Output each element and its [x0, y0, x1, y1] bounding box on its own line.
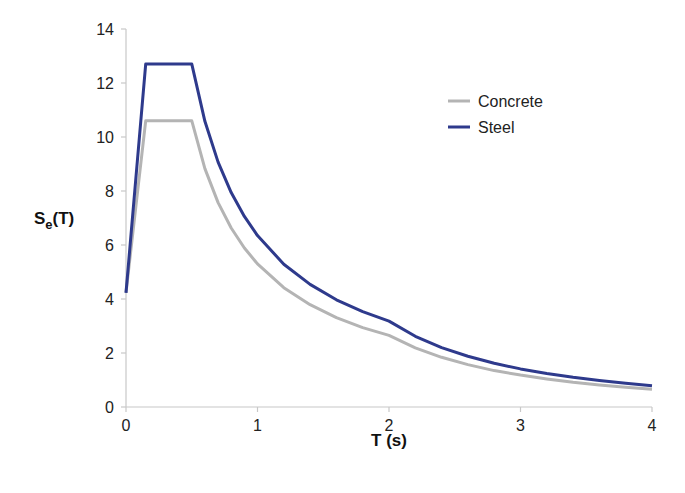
- y-axis-label: Se(T): [34, 209, 74, 232]
- y-tick-label: 4: [105, 291, 114, 308]
- y-tick-label: 8: [105, 183, 114, 200]
- legend-label-steel: Steel: [478, 119, 514, 136]
- x-axis-label: T (s): [371, 431, 407, 450]
- response-spectrum-chart: 0246810121401234 ConcreteSteel T (s) Se(…: [0, 0, 685, 493]
- legend-label-concrete: Concrete: [478, 93, 543, 110]
- y-tick-label: 10: [96, 129, 114, 146]
- x-tick-label: 4: [648, 417, 657, 434]
- y-tick-label: 14: [96, 21, 114, 38]
- y-tick-label: 12: [96, 75, 114, 92]
- series-concrete: [126, 121, 652, 389]
- y-tick-label: 2: [105, 345, 114, 362]
- y-tick-label: 0: [105, 399, 114, 416]
- x-tick-label: 3: [516, 417, 525, 434]
- y-tick-label: 6: [105, 237, 114, 254]
- x-tick-label: 0: [122, 417, 131, 434]
- series-lines: [126, 64, 652, 389]
- series-steel: [126, 64, 652, 386]
- legend: ConcreteSteel: [448, 93, 543, 136]
- x-tick-label: 1: [253, 417, 262, 434]
- axes: 0246810121401234: [96, 21, 656, 434]
